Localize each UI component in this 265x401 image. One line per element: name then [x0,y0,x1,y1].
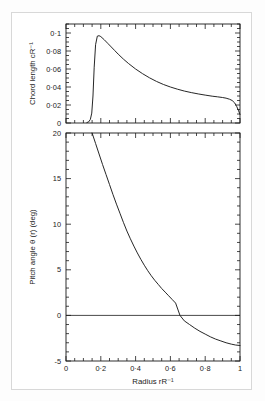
y-axis-label: Chord length cR⁻¹ [28,42,37,105]
ytick-label: 0·02 [46,101,61,110]
ytick-label: 0·1 [50,29,61,38]
xtick-label: 1 [238,364,242,373]
pitch-angle-panel [66,133,240,361]
ytick-label: 0·04 [46,83,61,92]
xtick-label: 0 [64,364,68,373]
xtick-label: 0·2 [95,364,106,373]
ytick-label: 0 [57,119,61,128]
data-series-line [87,36,240,123]
xtick-label: 0·8 [200,364,211,373]
data-series-line [92,133,240,346]
figure-canvas: 00·020·040·060·080·1Chord length cR⁻¹-50… [0,0,265,401]
plot-frame [66,133,240,361]
ytick-label: 0·08 [46,47,61,56]
chord-length-panel [66,24,240,123]
ytick-label: 20 [53,129,61,138]
ytick-label: 10 [53,220,61,229]
ytick-label: -5 [54,357,61,366]
x-axis-label: Radius rR⁻¹ [132,377,174,386]
xtick-label: 0·4 [130,364,141,373]
xtick-label: 0·6 [165,364,176,373]
ytick-label: 15 [53,174,61,183]
ytick-label: 0 [57,311,61,320]
ytick-label: 5 [57,265,61,274]
ytick-label: 0·06 [46,65,61,74]
chart-svg: 00·020·040·060·080·1Chord length cR⁻¹-50… [0,0,265,401]
y-axis-label: Pitch angle θ (r) (deg) [28,209,37,285]
